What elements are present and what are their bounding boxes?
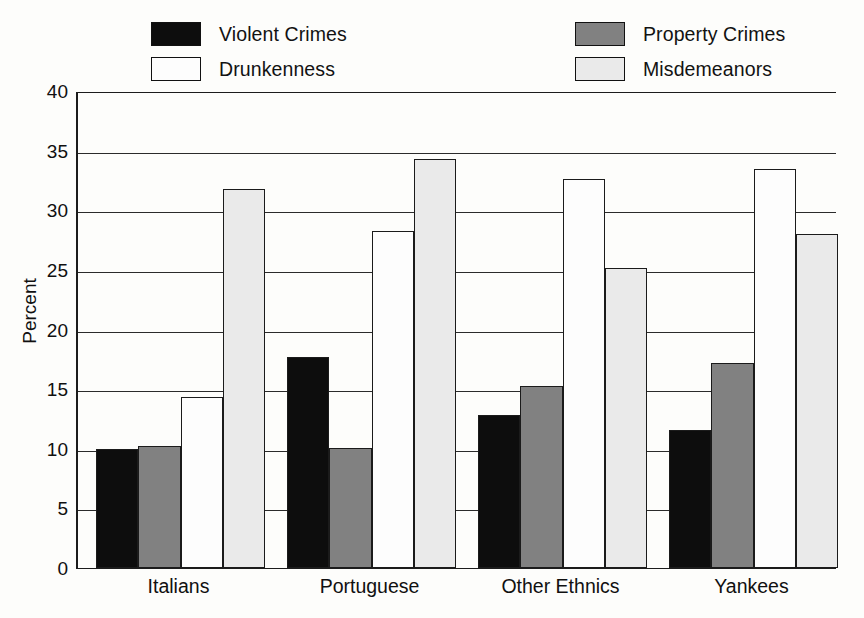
plot-wrapper: Percent 0510152025303540 ItaliansPortugu… xyxy=(0,0,864,618)
y-tick-label-5: 5 xyxy=(57,498,68,520)
bar-yankees-property-crimes xyxy=(711,363,753,568)
bars-layer xyxy=(78,93,836,568)
y-tick-label-20: 20 xyxy=(47,320,68,342)
y-tick-label-25: 25 xyxy=(47,260,68,282)
bar-italians-drunkenness xyxy=(181,397,223,568)
bar-other-ethnics-drunkenness xyxy=(563,179,605,568)
y-tick-label-10: 10 xyxy=(47,439,68,461)
y-axis-tick-labels: 0510152025303540 xyxy=(20,92,68,569)
bar-italians-violent-crimes xyxy=(96,449,138,568)
plot-area xyxy=(76,92,836,569)
bar-yankees-misdemeanors xyxy=(796,234,838,568)
bar-yankees-drunkenness xyxy=(754,169,796,568)
bar-other-ethnics-property-crimes xyxy=(520,386,562,568)
x-axis-category-labels: ItaliansPortugueseOther EthnicsYankees xyxy=(76,575,836,611)
bar-yankees-violent-crimes xyxy=(669,430,711,568)
y-tick-label-30: 30 xyxy=(47,200,68,222)
y-tick-label-0: 0 xyxy=(57,558,68,580)
bar-portuguese-misdemeanors xyxy=(414,159,456,568)
bar-italians-misdemeanors xyxy=(223,189,265,568)
x-tick-label-other-ethnics: Other Ethnics xyxy=(501,575,619,598)
bar-chart: Violent Crimes Drunkenness Property Crim… xyxy=(0,0,864,618)
bar-portuguese-violent-crimes xyxy=(287,357,329,568)
bar-portuguese-property-crimes xyxy=(329,448,371,568)
bar-other-ethnics-misdemeanors xyxy=(605,268,647,569)
y-tick-label-35: 35 xyxy=(47,141,68,163)
x-tick-label-yankees: Yankees xyxy=(714,575,788,598)
bar-other-ethnics-violent-crimes xyxy=(478,415,520,568)
x-tick-label-italians: Italians xyxy=(148,575,210,598)
bar-italians-property-crimes xyxy=(138,446,180,568)
bar-portuguese-drunkenness xyxy=(372,231,414,568)
x-tick-label-portuguese: Portuguese xyxy=(320,575,420,598)
y-tick-label-15: 15 xyxy=(47,379,68,401)
y-tick-label-40: 40 xyxy=(47,81,68,103)
